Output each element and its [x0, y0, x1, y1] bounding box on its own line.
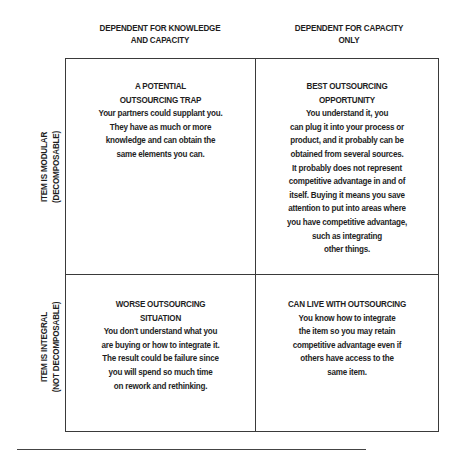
cell-title: A POTENTIAL	[80, 79, 241, 93]
cell-text: knowledge and can obtain the	[80, 133, 241, 147]
cell-text: obtained from several sources.	[270, 147, 425, 161]
column-header-line: AND CAPACITY	[84, 34, 237, 46]
cell-title: WORSE OUTSOURCING	[80, 297, 241, 311]
bottom-rule	[17, 449, 366, 450]
row-header-line: ITEM IS INTEGRAL	[38, 288, 50, 407]
cell-text: Your partners could supplant you.	[80, 106, 241, 120]
cell-text: are buying or how to integrate it.	[80, 338, 241, 352]
column-header-line: DEPENDENT FOR KNOWLEDGE	[84, 22, 237, 34]
cell-text: you will spend so much time	[80, 365, 241, 379]
cell-title: SITUATION	[80, 311, 241, 325]
cell-text: other things.	[270, 242, 425, 256]
cell-text: itself. Buying it means you save	[270, 188, 425, 202]
cell-text: can plug it into your process or	[270, 120, 425, 134]
cell-text: attention to put into areas where	[270, 201, 425, 215]
column-header-capacity-only: DEPENDENT FOR CAPACITY ONLY	[268, 22, 430, 46]
cell-worse-outsourcing-situation: WORSE OUTSOURCING SITUATION You don't un…	[66, 297, 255, 392]
cell-text: same item.	[270, 365, 425, 379]
cell-text: The result could be failure since	[80, 351, 241, 365]
row-header-integral: ITEM IS INTEGRAL (NOT DECOMPOSABLE)	[38, 288, 62, 407]
cell-text: competitive advantage in and of	[270, 174, 425, 188]
cell-text: You know how to integrate	[270, 311, 425, 325]
cell-text: competitive advantage even if	[270, 338, 425, 352]
cell-title: CAN LIVE WITH OUTSOURCING	[270, 297, 425, 311]
column-header-knowledge-and-capacity: DEPENDENT FOR KNOWLEDGE AND CAPACITY	[84, 22, 237, 46]
cell-text: others have access to the	[270, 351, 425, 365]
outsourcing-matrix: A POTENTIAL OUTSOURCING TRAP Your partne…	[65, 58, 439, 432]
cell-text: you have competitive advantage,	[270, 215, 425, 229]
cell-best-outsourcing-opportunity: BEST OUTSOURCING OPPORTUNITY You underst…	[256, 79, 438, 256]
cell-text: They have as much or more	[80, 120, 241, 134]
cell-text: product, and it probably can be	[270, 133, 425, 147]
cell-title: OUTSOURCING TRAP	[80, 93, 241, 107]
column-header-line: DEPENDENT FOR CAPACITY	[268, 22, 430, 34]
cell-text: on rework and rethinking.	[80, 379, 241, 393]
cell-text: It probably does not represent	[270, 161, 425, 175]
row-header-line: (NOT DECOMPOSABLE)	[50, 288, 62, 407]
cell-text: the item so you may retain	[270, 324, 425, 338]
horizontal-divider	[66, 274, 438, 275]
cell-title: OPPORTUNITY	[270, 93, 425, 107]
cell-can-live-with-outsourcing: CAN LIVE WITH OUTSOURCING You know how t…	[256, 297, 438, 379]
cell-text: same elements you can.	[80, 147, 241, 161]
row-header-modular: ITEM IS MODULAR (DECOMPOSABLE)	[38, 108, 62, 227]
row-header-line: ITEM IS MODULAR	[38, 108, 50, 227]
cell-text: You understand it, you	[270, 106, 425, 120]
cell-text: such as integrating	[270, 229, 425, 243]
row-header-line: (DECOMPOSABLE)	[50, 108, 62, 227]
cell-potential-outsourcing-trap: A POTENTIAL OUTSOURCING TRAP Your partne…	[66, 79, 255, 161]
cell-title: BEST OUTSOURCING	[270, 79, 425, 93]
cell-text: You don't understand what you	[80, 324, 241, 338]
column-header-line: ONLY	[268, 34, 430, 46]
